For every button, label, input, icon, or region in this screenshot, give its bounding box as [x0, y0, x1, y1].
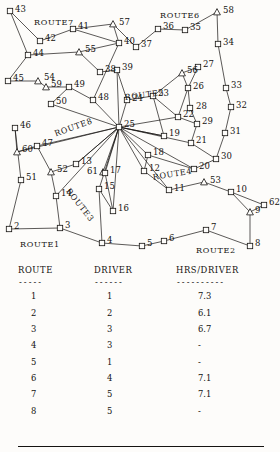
map-edge: [73, 29, 119, 43]
node-label-5: 5: [147, 238, 152, 248]
map-edge: [218, 44, 226, 88]
map-edge: [153, 96, 164, 136]
route-cell: 8: [18, 402, 94, 418]
hrs-cell: 6.7: [176, 321, 264, 337]
table-row: 43-: [18, 337, 264, 353]
route-cell: 7: [18, 386, 94, 402]
map-node-5: [139, 243, 144, 248]
node-label-55: 55: [85, 44, 96, 54]
node-label-45: 45: [13, 73, 24, 83]
hrs-cell: 7.1: [176, 386, 264, 402]
assignment-table: ROUTE DRIVER HRS/DRIVER ----- ------ ---…: [18, 262, 264, 419]
node-label-28: 28: [196, 101, 207, 111]
map-node-19: [161, 133, 166, 138]
node-label-19: 19: [169, 128, 180, 138]
route-network-map: 4342415736355844554037344554594938395627…: [0, 0, 280, 256]
route-label-number: 1: [54, 240, 59, 249]
node-label-18: 18: [153, 147, 164, 157]
node-label-50: 50: [56, 96, 67, 106]
table-row: 647.1: [18, 370, 264, 386]
node-label-32: 32: [236, 100, 247, 110]
route-cell: 1: [18, 288, 94, 304]
map-node-47: [34, 143, 39, 148]
route-label-word: ROUTE: [160, 11, 194, 20]
map-node-46: [12, 125, 17, 130]
map-node-56: [179, 70, 186, 76]
map-node-26: [185, 85, 190, 90]
table-bottom-rule: [18, 446, 264, 447]
node-label-10: 10: [236, 184, 247, 194]
node-label-46: 46: [20, 120, 31, 130]
map-node-52: [48, 169, 55, 175]
node-label-4: 4: [107, 235, 112, 245]
driver-cell: 1: [94, 288, 176, 304]
table-row: 117.3: [18, 288, 264, 304]
driver-cell: 5: [94, 386, 176, 402]
map-edge: [217, 12, 218, 44]
node-label-47: 47: [42, 138, 53, 148]
map-node-32: [228, 104, 233, 109]
map-edge: [142, 241, 164, 246]
map-node-35: [182, 27, 187, 32]
map-node-7: [203, 227, 208, 232]
route-cell: 2: [18, 305, 94, 321]
map-node-16: [110, 208, 115, 213]
hrs-cell: -: [176, 353, 264, 369]
map-node-14: [53, 193, 58, 198]
route-label-2: ROUTE2: [196, 246, 235, 255]
node-label-41: 41: [78, 21, 89, 31]
hrs-cell: -: [176, 337, 264, 353]
node-label-38: 38: [105, 64, 116, 74]
map-node-44: [25, 52, 30, 57]
node-label-6: 6: [169, 233, 174, 243]
node-label-57: 57: [119, 17, 130, 27]
map-node-13: [73, 161, 78, 166]
node-label-53: 53: [210, 175, 221, 185]
header-route: ROUTE: [18, 262, 94, 278]
table-row: 85-: [18, 402, 264, 418]
map-node-48: [90, 97, 95, 102]
map-edge: [10, 11, 28, 55]
map-node-49: [66, 84, 71, 89]
node-label-56: 56: [187, 65, 198, 75]
driver-cell: 4: [94, 370, 176, 386]
node-label-51: 51: [26, 172, 37, 182]
node-label-25: 25: [124, 119, 135, 129]
node-label-15: 15: [104, 181, 115, 191]
map-edge: [153, 96, 178, 117]
node-label-52: 52: [57, 164, 68, 174]
map-node-2: [6, 226, 11, 231]
map-node-58: [214, 9, 221, 15]
route-cell: 6: [18, 370, 94, 386]
header-hrs-per-driver: HRS/DRIVER: [176, 262, 264, 278]
map-node-62: [261, 202, 266, 207]
node-label-44: 44: [33, 48, 44, 58]
header-driver: DRIVER: [94, 262, 176, 278]
node-label-30: 30: [221, 151, 232, 161]
table-body: 117.3226.1336.743-51-647.1757.185-: [18, 288, 264, 418]
map-edge: [206, 230, 250, 246]
route-cell: 3: [18, 321, 94, 337]
map-node-38: [97, 69, 102, 74]
map-node-29: [194, 121, 199, 126]
rule-driver: ------: [94, 278, 176, 288]
node-label-31: 31: [230, 126, 241, 136]
node-label-33: 33: [231, 80, 242, 90]
route-driver-table: ROUTE DRIVER HRS/DRIVER ----- ------ ---…: [0, 262, 280, 452]
map-edge: [60, 228, 102, 243]
map-edge: [117, 70, 119, 127]
route-label-3: ROUTE3: [64, 187, 95, 223]
node-label-11: 11: [174, 183, 185, 193]
map-node-53: [201, 179, 208, 185]
node-label-29: 29: [202, 116, 213, 126]
hrs-cell: 7.1: [176, 370, 264, 386]
hrs-cell: 6.1: [176, 305, 264, 321]
route-label-word: ROUTE: [64, 187, 92, 219]
map-node-10: [228, 189, 233, 194]
route-label-number: 7: [68, 18, 73, 27]
route-label-word: ROUTE: [34, 18, 68, 27]
map-node-18: [145, 152, 150, 157]
route-cell: 5: [18, 353, 94, 369]
node-label-16: 16: [118, 203, 129, 213]
node-label-42: 42: [45, 33, 56, 43]
